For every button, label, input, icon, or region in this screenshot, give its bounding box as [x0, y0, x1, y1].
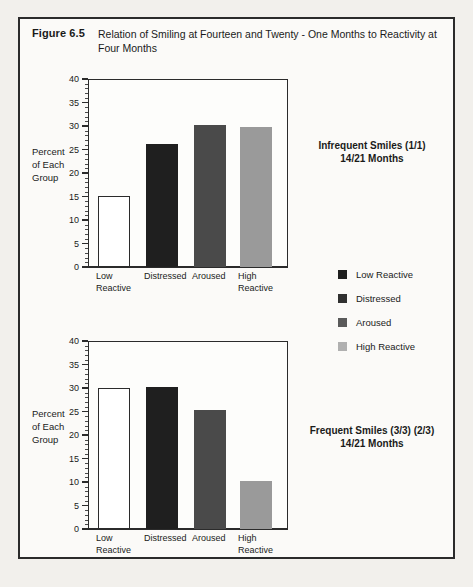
- y-tick-label: 0: [74, 525, 79, 534]
- y-tick-label: 25: [69, 145, 79, 154]
- y-tick-label: 40: [69, 337, 79, 346]
- annotation-line: Infrequent Smiles (1/1): [292, 139, 452, 152]
- x-axis-line: [88, 267, 288, 268]
- panel-annotation: Infrequent Smiles (1/1)14/21 Months: [292, 139, 452, 165]
- y-tick-label: 5: [74, 501, 79, 510]
- figure-container: Figure 6.5 Relation of Smiling at Fourte…: [18, 17, 455, 559]
- bar-aroused: [194, 410, 226, 529]
- x-label-high-reactive: HighReactive: [238, 270, 273, 294]
- legend-swatch-icon: [338, 270, 347, 279]
- bar-low-reactive: [98, 388, 130, 529]
- y-tick-label: 10: [69, 216, 79, 225]
- x-label-line: Distressed: [144, 532, 187, 544]
- x-label-line: Aroused: [192, 270, 226, 282]
- panel-annotation: Frequent Smiles (3/3) (2/3)14/21 Months: [288, 424, 456, 450]
- x-label-low-reactive: LowReactive: [96, 532, 131, 556]
- x-label-line: High: [238, 532, 273, 544]
- bar-group: [88, 341, 288, 529]
- y-tick-label: 30: [69, 384, 79, 393]
- x-label-distressed: Distressed: [144, 270, 187, 282]
- bar-distressed: [146, 387, 178, 529]
- legend-item: Distressed: [338, 286, 458, 310]
- y-tick-label: 10: [69, 478, 79, 487]
- x-label-aroused: Aroused: [192, 532, 226, 544]
- legend-swatch-icon: [338, 342, 347, 351]
- annotation-line: 14/21 Months: [288, 437, 456, 450]
- legend-swatch-icon: [338, 294, 347, 303]
- y-tick-label: 20: [69, 431, 79, 440]
- y-tick-label: 40: [69, 75, 79, 84]
- x-label-high-reactive: HighReactive: [238, 532, 273, 556]
- x-label-line: Distressed: [144, 270, 187, 282]
- bar-group: [88, 79, 288, 267]
- x-label-low-reactive: LowReactive: [96, 270, 131, 294]
- legend-item: Aroused: [338, 310, 458, 334]
- legend-label: Low Reactive: [356, 269, 413, 280]
- legend-item: High Reactive: [338, 334, 458, 358]
- x-label-line: Reactive: [96, 544, 131, 556]
- y-tick-label: 5: [74, 239, 79, 248]
- y-tick-label: 35: [69, 360, 79, 369]
- legend-label: Distressed: [356, 293, 401, 304]
- annotation-line: 14/21 Months: [292, 152, 452, 165]
- x-label-line: Low: [96, 270, 131, 282]
- x-label-line: Reactive: [96, 282, 131, 294]
- figure-caption-text: Relation of Smiling at Fourteen and Twen…: [98, 27, 441, 55]
- y-tick-label: 35: [69, 98, 79, 107]
- x-label-line: Low: [96, 532, 131, 544]
- chart-panel-frequent-smiles: Percentof EachGroup 0510152025303540 Low…: [20, 329, 457, 574]
- y-tick-label: 15: [69, 192, 79, 201]
- bar-high-reactive: [240, 481, 272, 529]
- figure-caption: Figure 6.5 Relation of Smiling at Fourte…: [32, 27, 441, 55]
- x-axis-labels: LowReactiveDistressedArousedHighReactive: [88, 532, 288, 566]
- x-axis-labels: LowReactiveDistressedArousedHighReactive: [88, 270, 288, 304]
- y-tick-label: 25: [69, 407, 79, 416]
- x-label-line: Aroused: [192, 532, 226, 544]
- x-axis-line: [88, 529, 288, 530]
- y-axis-ticks: 0510152025303540: [20, 341, 88, 529]
- x-label-line: Reactive: [238, 282, 273, 294]
- bar-low-reactive: [98, 196, 130, 267]
- annotation-line: Frequent Smiles (3/3) (2/3): [288, 424, 456, 437]
- legend-item: Low Reactive: [338, 262, 458, 286]
- x-label-distressed: Distressed: [144, 532, 187, 544]
- x-label-line: Reactive: [238, 544, 273, 556]
- y-tick-label: 20: [69, 169, 79, 178]
- y-tick-label: 0: [74, 263, 79, 272]
- bar-aroused: [194, 125, 226, 267]
- y-axis-ticks: 0510152025303540: [20, 79, 88, 267]
- x-label-aroused: Aroused: [192, 270, 226, 282]
- figure-number-label: Figure 6.5: [32, 27, 85, 39]
- bar-high-reactive: [240, 127, 272, 267]
- legend-label: Aroused: [356, 317, 391, 328]
- y-tick-label: 30: [69, 122, 79, 131]
- y-tick-label: 15: [69, 454, 79, 463]
- legend-swatch-icon: [338, 318, 347, 327]
- legend-label: High Reactive: [356, 341, 415, 352]
- x-label-line: High: [238, 270, 273, 282]
- bar-distressed: [146, 144, 178, 267]
- chart-legend: Low ReactiveDistressedArousedHigh Reacti…: [338, 262, 458, 358]
